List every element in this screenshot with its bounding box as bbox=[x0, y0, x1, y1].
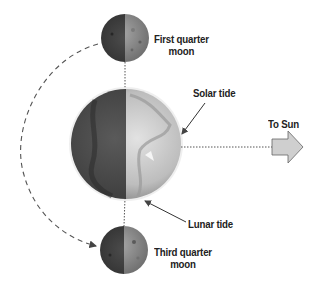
third-quarter-label-line2: moon bbox=[154, 258, 212, 270]
solar-tide-text: Solar tide bbox=[193, 87, 235, 99]
earth bbox=[69, 87, 183, 201]
first-quarter-moon bbox=[101, 14, 149, 62]
first-quarter-moon-label: First quarter moon bbox=[154, 33, 209, 57]
tide-diagram: First quarter moon Solar tide To Sun Lun… bbox=[0, 0, 313, 284]
third-quarter-label-line1: Third quarter bbox=[154, 246, 212, 258]
first-quarter-label-line1: First quarter bbox=[154, 33, 209, 45]
solar-tide-pointer bbox=[182, 103, 205, 134]
solar-tide-label: Solar tide bbox=[193, 87, 235, 99]
to-sun-text: To Sun bbox=[268, 118, 299, 130]
third-quarter-moon bbox=[100, 226, 148, 274]
to-sun-arrow-icon bbox=[272, 131, 303, 163]
to-sun-label: To Sun bbox=[268, 118, 299, 130]
third-quarter-moon-label: Third quarter moon bbox=[154, 246, 212, 270]
lunar-tide-text: Lunar tide bbox=[188, 218, 233, 230]
lunar-tide-pointer bbox=[145, 201, 186, 222]
lunar-tide-label: Lunar tide bbox=[188, 218, 233, 230]
first-quarter-label-line2: moon bbox=[154, 45, 209, 57]
